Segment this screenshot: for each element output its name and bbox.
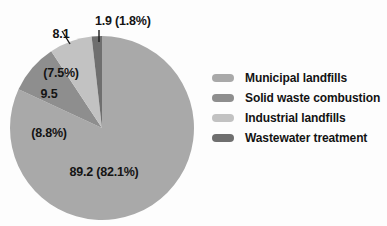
legend-label: Industrial landfills <box>245 111 346 125</box>
data-label-combustion-percent: (8.8%) <box>18 127 80 140</box>
legend-item-municipal-landfills: Municipal landfills <box>212 68 387 88</box>
legend-label: Wastewater treatment <box>245 131 367 145</box>
legend-label: Municipal landfills <box>245 71 347 85</box>
data-label-municipal-landfills: 89.2 (82.1%) <box>52 166 156 179</box>
legend-swatch-icon <box>212 134 234 142</box>
data-label-wastewater-treatment: 1.9 (1.8%) <box>95 15 179 28</box>
data-label-industrial-value: 8.1 <box>30 28 92 41</box>
data-label-solid-waste-combustion: 9.5 (8.8%) <box>18 62 80 166</box>
legend-label: Solid waste combustion <box>245 91 380 105</box>
data-label-combustion-value: 9.5 <box>18 88 80 101</box>
legend-swatch-icon <box>212 114 234 122</box>
legend-swatch-icon <box>212 74 234 82</box>
legend-item-wastewater-treatment: Wastewater treatment <box>212 128 387 148</box>
pie-chart-figure: 8.1 (7.5%) 1.9 (1.8%) 9.5 (8.8%) 89.2 (8… <box>0 0 387 226</box>
chart-legend: Municipal landfills Solid waste combusti… <box>212 68 387 148</box>
legend-item-industrial-landfills: Industrial landfills <box>212 108 387 128</box>
legend-item-solid-waste-combustion: Solid waste combustion <box>212 88 387 108</box>
legend-swatch-icon <box>212 94 234 102</box>
